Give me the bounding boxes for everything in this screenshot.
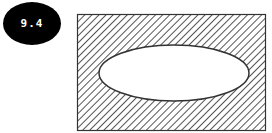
venn-diagram (0, 0, 272, 133)
set-ellipse (99, 45, 249, 101)
